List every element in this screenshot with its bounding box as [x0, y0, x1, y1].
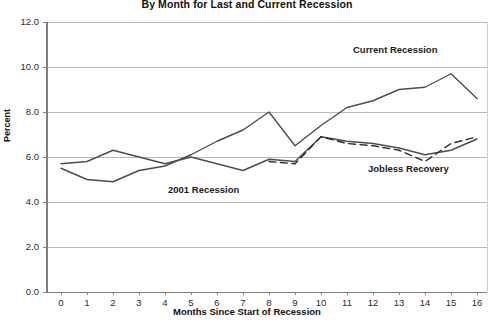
x-tick-label: 5	[181, 297, 201, 308]
y-tick-label: 8.0	[3, 106, 39, 117]
series-line-2	[269, 137, 477, 164]
x-tick-label: 4	[155, 297, 175, 308]
x-tick-label: 13	[389, 297, 409, 308]
x-tick-label: 6	[207, 297, 227, 308]
x-tick-label: 11	[337, 297, 357, 308]
x-tick-label: 9	[285, 297, 305, 308]
chart-container: By Month for Last and Current Recession …	[0, 0, 494, 323]
y-tick-label: 4.0	[3, 196, 39, 207]
y-tick-label: 6.0	[3, 151, 39, 162]
x-tick-label: 2	[103, 297, 123, 308]
x-tick-label: 3	[129, 297, 149, 308]
y-tick-label: 0.0	[3, 286, 39, 297]
x-tick-label: 1	[77, 297, 97, 308]
x-tick-label: 12	[363, 297, 383, 308]
series-annotation-0: Current Recession	[353, 44, 437, 55]
y-tick-label: 10.0	[3, 61, 39, 72]
y-tick-label: 2.0	[3, 241, 39, 252]
series-annotation-2: Jobless Recovery	[368, 163, 449, 174]
x-tick-label: 15	[441, 297, 461, 308]
x-tick-label: 14	[415, 297, 435, 308]
x-tick-label: 0	[51, 297, 71, 308]
y-tick-label: 12.0	[3, 16, 39, 27]
series-annotation-1: 2001 Recession	[168, 184, 239, 195]
x-tick-label: 10	[311, 297, 331, 308]
x-tick-label: 16	[467, 297, 487, 308]
x-tick-label: 7	[233, 297, 253, 308]
x-tick-label: 8	[259, 297, 279, 308]
